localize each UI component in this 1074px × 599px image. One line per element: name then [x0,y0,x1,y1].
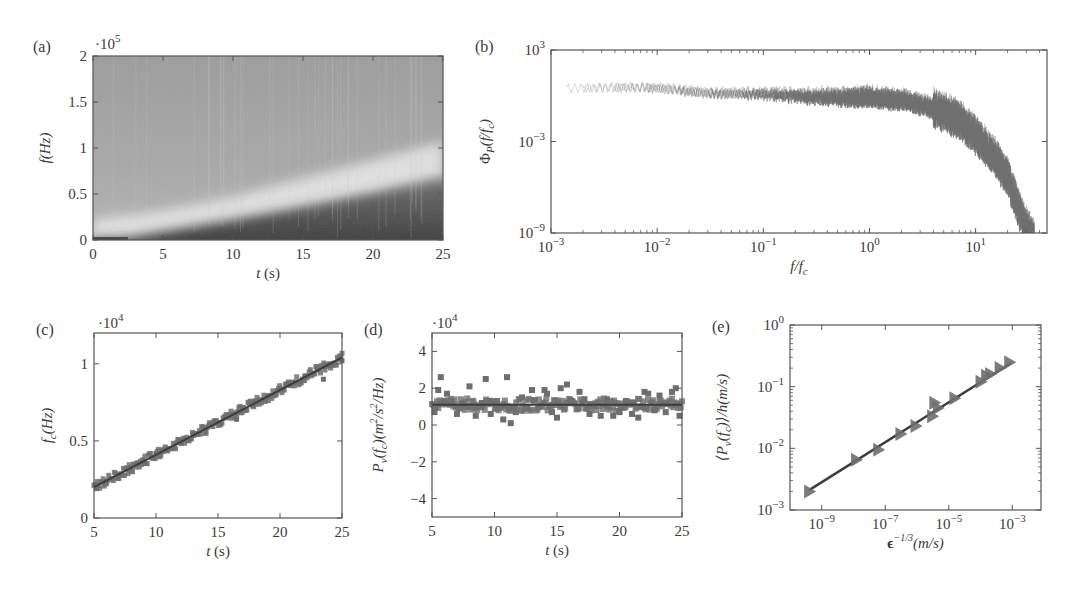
x-axis-label: t (s) [545,542,569,559]
panel-label: (a) [33,38,51,56]
panel-label: (b) [475,38,494,56]
panel-a-spectrogram: 051015202500.511.52(a)·105t (s)f(Hz) [33,32,453,282]
tick-label: 25 [335,524,350,540]
tick-label: 103 [525,38,546,58]
tick-label: 20 [273,524,288,540]
tick-label: 4 [419,343,427,359]
tick-label: 0 [81,510,89,526]
tick-label: 10−3 [518,130,545,150]
tick-label: 25 [675,523,690,539]
tick-label: 100 [859,235,880,255]
tick-label: −4 [410,491,426,507]
data-markers [92,351,345,491]
tick-label: 1 [81,356,89,372]
tick-label: 10−1 [750,235,777,255]
tick-label: 10 [487,523,502,539]
y-axis-label: ΦP(f/fc) [477,119,496,164]
tick-label: 10 [226,246,241,262]
tick-label: 15 [211,524,226,540]
tick-label: 0.5 [69,433,88,449]
panel-d-axes-frame [432,333,682,517]
panel-e-scaling-law: 10−910−710−510−310−310−210−1100(e)ϵ−1/3(… [712,313,1041,552]
tick-label: 5 [90,524,98,540]
tick-label: 5 [428,523,436,539]
x-axis-label: t (s) [256,265,280,282]
x-axis-label: ϵ−1/3(m/s) [887,532,944,552]
y-axis-label: f(Hz) [37,133,54,164]
tick-label: 2 [419,380,427,396]
y-axis-label: fc(Hz) [39,408,58,444]
tick-label: 101 [965,235,986,255]
y-axis-label: Pv(fc)(m2/s2/Hz) [368,378,389,474]
x-axis-label: f/fc [790,258,808,277]
axis-multiplier: ·104 [432,311,458,331]
tick-label: 15 [550,523,565,539]
tick-label: 0 [89,246,97,262]
panel-label: (c) [36,321,54,339]
tick-label: 10 [149,524,164,540]
panel-d-power-at-cutoff: 510152025−4−2024(d)·104t (s)Pv(fc)(m2/s2… [364,311,690,559]
data-markers [429,374,685,426]
figure-canvas: 051015202500.511.52(a)·105t (s)f(Hz) 10−… [0,0,1074,599]
tick-label: −2 [410,454,426,470]
tick-label: 1.5 [68,94,87,110]
tick-label: 15 [296,246,311,262]
tick-label: 10−2 [757,436,784,456]
tick-label: 100 [764,313,785,333]
tick-label: 10−1 [757,375,784,395]
panel-c-cutoff-frequency: 51015202500.51(c)·104t (s)fc(Hz) [36,311,350,560]
axis-multiplier: ·105 [95,32,121,52]
tick-label: 10−2 [644,235,671,255]
tick-label: 10−5 [935,512,962,532]
tick-label: 0.5 [68,186,87,202]
tick-label: 20 [612,523,627,539]
tick-label: 10−3 [999,512,1026,532]
spectra-lines [567,82,1034,258]
panel-b-collapsed-spectra: 10−310−210−110010110−910−3103(b)f/fcΦP(f… [475,38,1047,277]
tick-label: 10−9 [518,221,545,241]
fit-line [94,358,342,488]
axis-multiplier: ·104 [98,311,124,331]
tick-label: 5 [159,246,167,262]
x-axis-label: t (s) [206,543,230,560]
tick-label: 10−3 [757,498,784,518]
tick-label: 10−7 [872,512,899,532]
tick-label: 0 [80,232,88,248]
tick-label: 25 [436,246,451,262]
panel-label: (e) [712,318,730,336]
tick-label: 10−9 [808,512,835,532]
spectrogram-image [93,56,453,250]
panel-label: (d) [364,321,383,339]
tick-label: 2 [80,48,88,64]
y-axis-label: ⟨Pv(fc)⟩/h(m/s) [714,374,733,461]
tick-label: 20 [366,246,381,262]
panel-e-axes-frame [790,325,1041,510]
tick-label: 1 [80,140,88,156]
tick-label: 0 [419,417,427,433]
tick-label: 10−3 [538,235,565,255]
